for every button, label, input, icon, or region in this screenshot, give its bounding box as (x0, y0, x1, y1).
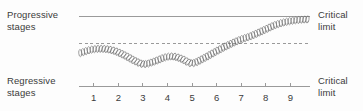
coiled-trajectory-curve (78, 16, 309, 68)
x-tick-label: 3 (136, 92, 150, 103)
chart-canvas (0, 0, 363, 111)
x-tick-label: 2 (111, 92, 125, 103)
x-tick-label: 6 (210, 92, 224, 103)
x-axis-ticks (94, 83, 291, 87)
figure-root: Progressive stages Regressive stages Cri… (0, 0, 363, 111)
x-tick-label: 8 (259, 92, 273, 103)
x-tick-label: 1 (87, 92, 101, 103)
x-tick-label: 5 (185, 92, 199, 103)
x-tick-label: 7 (234, 92, 248, 103)
x-tick-label: 4 (160, 92, 174, 103)
x-tick-label: 9 (283, 92, 297, 103)
